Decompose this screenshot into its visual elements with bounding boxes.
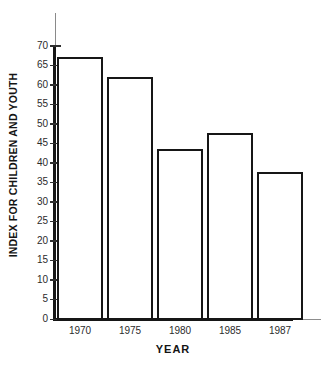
plot-area: 7065605550454035302520151050 19701975198… [0, 0, 331, 365]
x-tick-label: 1980 [157, 324, 203, 338]
y-tick-label: 45 [22, 137, 48, 149]
y-tick-label: 40 [22, 157, 48, 169]
bar-chart: INDEX FOR CHILDREN AND YOUTH 70656055504… [0, 0, 331, 365]
x-tick-label: 1987 [257, 324, 303, 338]
y-tick-label: 55 [22, 98, 48, 110]
y-tick-label: 15 [22, 254, 48, 266]
bar [107, 77, 153, 320]
bar [157, 149, 203, 320]
x-tick-label: 1970 [57, 324, 103, 338]
y-tick-label: 5 [22, 293, 48, 305]
y-tick-label: 0 [22, 313, 48, 325]
bar [207, 133, 253, 320]
y-tick-label: 30 [22, 196, 48, 208]
bar [57, 57, 103, 320]
y-tick-label: 35 [22, 176, 48, 188]
bar [257, 172, 303, 320]
y-tick-label: 10 [22, 274, 48, 286]
y-tick-label: 50 [22, 118, 48, 130]
y-tick-label: 70 [22, 40, 48, 52]
y-tick-label: 65 [22, 59, 48, 71]
x-tick-label: 1975 [107, 324, 153, 338]
y-tick-mark [50, 45, 61, 47]
x-axis-title: YEAR [53, 343, 293, 355]
y-tick-label: 60 [22, 79, 48, 91]
y-axis-line-upper [55, 13, 56, 46]
y-tick-label: 25 [22, 215, 48, 227]
x-tick-label: 1985 [207, 324, 253, 338]
y-tick-label: 20 [22, 235, 48, 247]
